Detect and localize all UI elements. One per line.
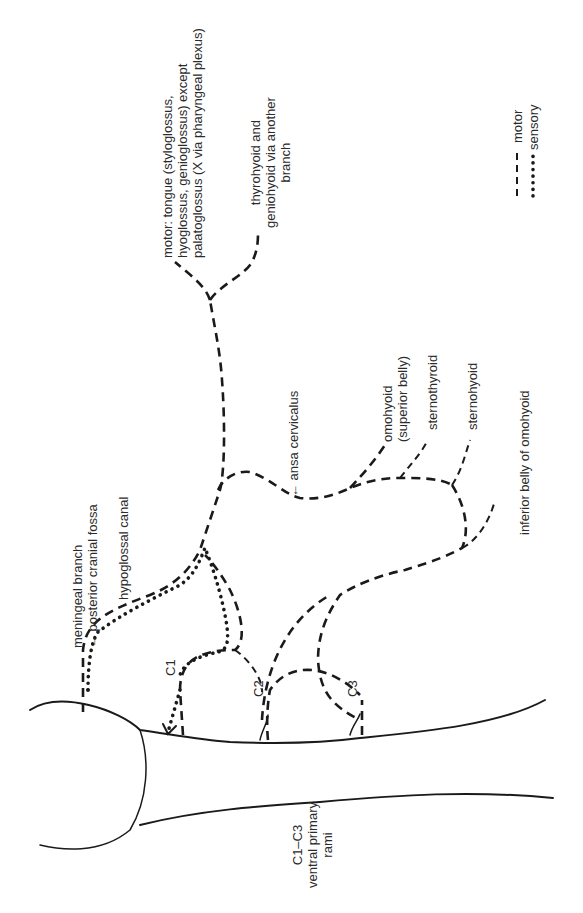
label-c2: C2 [251, 680, 266, 697]
label-c3: C3 [345, 680, 360, 697]
label-tongue-motor: motor: tongue (styloglossus, hyoglossus,… [160, 28, 205, 258]
sensory-fibers [85, 548, 228, 734]
legend [517, 150, 533, 196]
label-ventral-rami: C1–C3 ventral primary rami [290, 802, 335, 888]
label-c1: C1 [163, 659, 178, 676]
label-meningeal-branch: meningeal branch → posterior cranial fos… [70, 504, 100, 648]
label-sternothyroid: sternothyroid [425, 355, 440, 430]
legend-motor-label: motor [510, 110, 525, 143]
label-sternohyoid: sternohyoid [465, 363, 480, 430]
label-omohyoid-superior: omohyoid (superior belly) [380, 356, 410, 442]
legend-sensory-label: sensory [526, 104, 541, 150]
label-thyrohyoid: thyrohyoid and geniohyoid via another br… [248, 97, 293, 228]
label-ansa-cervicalis: ← ansa cervicalus [286, 391, 301, 497]
label-hypoglossal-canal: hypoglossal canal [116, 497, 131, 600]
label-omohyoid-inferior: inferior belly of omohyoid [517, 390, 532, 535]
